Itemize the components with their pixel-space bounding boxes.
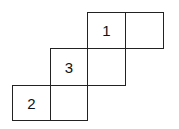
- cell-blank-bottom: [50, 85, 88, 121]
- cell-label: 2: [27, 95, 35, 112]
- cell-1: 1: [87, 12, 126, 49]
- cell-2: 2: [12, 85, 51, 121]
- cell-label: 3: [65, 59, 73, 76]
- cell-3: 3: [50, 48, 88, 86]
- cell-blank-middle: [87, 48, 126, 86]
- cell-label: 1: [102, 22, 110, 39]
- cell-blank-top-right: [125, 12, 164, 49]
